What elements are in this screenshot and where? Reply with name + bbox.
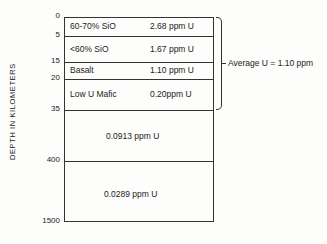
depth-tick-400: 400 bbox=[30, 155, 60, 164]
average-annotation: Average U = 1.10 ppm bbox=[228, 58, 313, 68]
y-axis-label: DEPTH IN KILOMETERS bbox=[8, 63, 17, 160]
layer-2-name: <60% SiO bbox=[70, 44, 109, 54]
layer-4-name: Low U Mafic bbox=[70, 89, 117, 99]
layer-1-name: 60-70% SiO bbox=[70, 21, 116, 31]
layer-3-value: 1.10 ppm U bbox=[150, 65, 194, 75]
layer-4-value: 0.20ppm U bbox=[150, 89, 192, 99]
boundary-20km bbox=[64, 79, 214, 80]
layer-2-value: 1.67 ppm U bbox=[150, 44, 194, 54]
boundary-5km bbox=[64, 36, 214, 37]
boundary-400km bbox=[64, 161, 214, 162]
depth-tick-20: 20 bbox=[30, 73, 60, 82]
depth-tick-1500: 1500 bbox=[30, 216, 60, 225]
depth-tick-15: 15 bbox=[30, 56, 60, 65]
boundary-35km bbox=[64, 110, 214, 111]
layer-5-value: 0.0913 ppm U bbox=[106, 131, 159, 141]
layer-6-value: 0.0289 ppm U bbox=[104, 189, 157, 199]
bracket-tip bbox=[222, 63, 226, 64]
depth-tick-35: 35 bbox=[30, 104, 60, 113]
depth-tick-5: 5 bbox=[30, 30, 60, 39]
layer-1-value: 2.68 ppm U bbox=[150, 21, 194, 31]
boundary-15km bbox=[64, 62, 214, 63]
depth-tick-0: 0 bbox=[30, 11, 60, 20]
layer-3-name: Basalt bbox=[70, 65, 94, 75]
